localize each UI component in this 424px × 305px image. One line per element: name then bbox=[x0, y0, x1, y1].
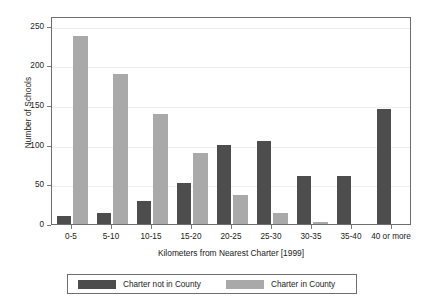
x-axis-tick-mark bbox=[351, 225, 352, 229]
x-axis-tick-mark bbox=[311, 225, 312, 229]
bar-group bbox=[377, 18, 408, 224]
bar bbox=[73, 36, 88, 224]
bar bbox=[177, 183, 192, 224]
legend-label: Charter in County bbox=[271, 280, 335, 289]
x-axis-tick-mark bbox=[391, 225, 392, 229]
x-axis-tick-mark bbox=[231, 225, 232, 229]
x-axis-tick-label: 30-35 bbox=[301, 232, 322, 241]
legend-swatch bbox=[226, 280, 264, 289]
bar-group bbox=[297, 18, 328, 224]
x-axis-tick-mark bbox=[271, 225, 272, 229]
x-axis-tick-label: 20-25 bbox=[221, 232, 242, 241]
y-axis-tick-mark bbox=[47, 146, 51, 147]
bar bbox=[113, 74, 128, 224]
bar-group bbox=[337, 18, 368, 224]
bar-series-container bbox=[52, 18, 410, 224]
x-axis-tick-label: 25-30 bbox=[261, 232, 282, 241]
y-axis-tick-label: 250 bbox=[18, 23, 44, 31]
y-axis-tick-label: 150 bbox=[18, 102, 44, 110]
bar-group bbox=[137, 18, 168, 224]
legend-entry: Charter in County bbox=[226, 275, 335, 293]
chart-figure: Number of Schools 050100150200250 0-55-1… bbox=[0, 0, 424, 305]
bar bbox=[377, 109, 392, 224]
x-axis-tick-label: 35-40 bbox=[341, 232, 362, 241]
bar bbox=[217, 145, 232, 224]
bar-group bbox=[257, 18, 288, 224]
x-axis-tick-mark bbox=[71, 225, 72, 229]
x-axis-tick-label: 0-5 bbox=[65, 232, 77, 241]
chart-legend: Charter not in CountyCharter in County bbox=[67, 274, 357, 294]
x-axis-title: Kilometers from Nearest Charter [1999] bbox=[51, 248, 411, 258]
bar-group bbox=[97, 18, 128, 224]
bar-group bbox=[57, 18, 88, 224]
y-axis-tick-labels: 050100150200250 bbox=[16, 0, 44, 305]
y-axis-tick-mark bbox=[47, 66, 51, 67]
bar-group bbox=[217, 18, 248, 224]
x-axis-tick-label: 40 or more bbox=[371, 232, 411, 241]
y-axis-tick-mark bbox=[47, 27, 51, 28]
legend-entry: Charter not in County bbox=[78, 275, 201, 293]
bar-group bbox=[177, 18, 208, 224]
y-axis-tick-mark bbox=[47, 106, 51, 107]
bar bbox=[153, 114, 168, 224]
y-axis-tick-label: 100 bbox=[18, 142, 44, 150]
bar bbox=[257, 141, 272, 224]
y-axis-tick-label: 200 bbox=[18, 62, 44, 70]
bar bbox=[297, 176, 312, 224]
x-axis-tick-mark bbox=[111, 225, 112, 229]
legend-swatch bbox=[78, 280, 116, 289]
legend-label: Charter not in County bbox=[123, 280, 201, 289]
x-axis-tick-mark bbox=[191, 225, 192, 229]
y-axis-tick-mark bbox=[47, 225, 51, 226]
bar bbox=[97, 213, 112, 224]
plot-area bbox=[51, 17, 411, 225]
bar bbox=[193, 153, 208, 224]
x-axis-tick-mark bbox=[151, 225, 152, 229]
y-axis-tick-label: 0 bbox=[18, 221, 44, 229]
bar bbox=[273, 213, 288, 224]
x-axis-tick-label: 10-15 bbox=[141, 232, 162, 241]
y-axis-tick-mark bbox=[47, 185, 51, 186]
x-axis-tick-label: 15-20 bbox=[181, 232, 202, 241]
bar bbox=[313, 222, 328, 224]
bar bbox=[137, 201, 152, 224]
bar bbox=[233, 195, 248, 224]
bar bbox=[57, 216, 72, 224]
bar bbox=[337, 176, 352, 224]
y-axis-tick-label: 50 bbox=[18, 181, 44, 189]
x-axis-tick-label: 5-10 bbox=[103, 232, 119, 241]
